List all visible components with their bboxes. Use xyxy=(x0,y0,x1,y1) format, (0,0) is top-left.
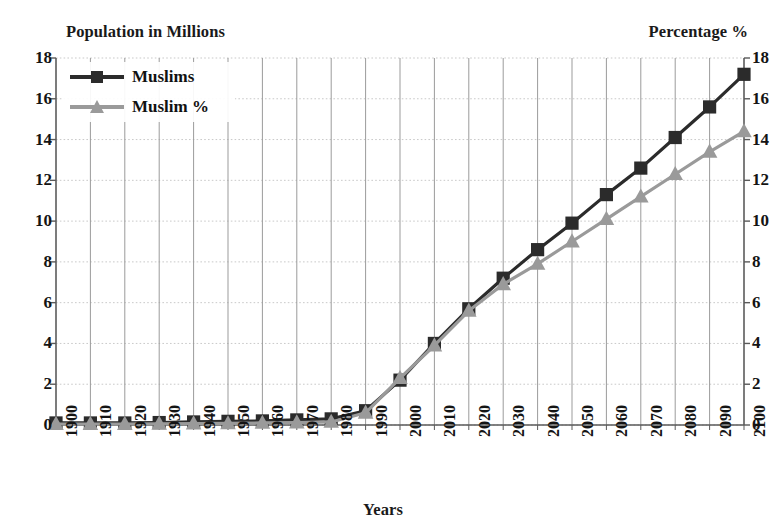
left-axis-tick-4: 4 xyxy=(12,334,52,351)
legend: Muslims Muslim % xyxy=(63,62,235,122)
x-axis-tick-2040: 2040 xyxy=(545,405,563,437)
legend-swatch-muslim-pct-icon xyxy=(69,98,125,116)
right-axis-tick-8: 8 xyxy=(752,253,774,270)
legend-swatch-muslims-icon xyxy=(69,68,125,86)
right-axis-tick-12: 12 xyxy=(752,171,774,188)
x-axis-tick-2100: 2100 xyxy=(751,405,769,437)
legend-label-muslim-pct: Muslim % xyxy=(132,97,209,117)
x-axis-tick-1960: 1960 xyxy=(269,405,287,437)
x-axis-tick-1900: 1900 xyxy=(63,405,81,437)
x-axis-tick-2080: 2080 xyxy=(682,405,700,437)
x-axis-tick-2070: 2070 xyxy=(648,405,666,437)
x-axis-tick-1990: 1990 xyxy=(373,405,391,437)
x-axis-tick-2060: 2060 xyxy=(613,405,631,437)
legend-item-muslims: Muslims xyxy=(69,65,235,89)
x-axis-tick-1910: 1910 xyxy=(97,405,115,437)
right-axis-tick-14: 14 xyxy=(752,131,774,148)
x-axis-tick-1980: 1980 xyxy=(338,405,356,437)
left-axis-tick-14: 14 xyxy=(12,131,52,148)
left-axis-tick-16: 16 xyxy=(12,90,52,107)
left-axis-tick-8: 8 xyxy=(12,253,52,270)
legend-label-muslims: Muslims xyxy=(132,67,194,87)
right-axis-tick-16: 16 xyxy=(752,90,774,107)
x-axis-tick-1970: 1970 xyxy=(304,405,322,437)
right-axis-tick-2: 2 xyxy=(752,375,774,392)
left-axis-tick-10: 10 xyxy=(12,212,52,229)
right-axis-tick-6: 6 xyxy=(752,294,774,311)
left-axis-tick-6: 6 xyxy=(12,294,52,311)
x-axis-tick-1950: 1950 xyxy=(235,405,253,437)
x-axis-tick-1930: 1930 xyxy=(166,405,184,437)
right-axis-tick-4: 4 xyxy=(752,334,774,351)
right-axis-tick-18: 18 xyxy=(752,49,774,66)
x-axis-tick-2000: 2000 xyxy=(407,405,425,437)
left-axis-tick-2: 2 xyxy=(12,375,52,392)
x-axis-tick-2010: 2010 xyxy=(441,405,459,437)
x-axis-tick-2050: 2050 xyxy=(579,405,597,437)
left-axis-tick-0: 0 xyxy=(12,416,52,433)
x-axis-tick-1940: 1940 xyxy=(201,405,219,437)
right-axis-tick-10: 10 xyxy=(752,212,774,229)
x-axis-tick-1920: 1920 xyxy=(132,405,150,437)
x-axis-tick-2020: 2020 xyxy=(476,405,494,437)
left-axis-tick-18: 18 xyxy=(12,49,52,66)
x-axis-tick-2090: 2090 xyxy=(717,405,735,437)
legend-item-muslim-pct: Muslim % xyxy=(69,95,235,119)
left-axis-tick-12: 12 xyxy=(12,171,52,188)
x-axis-tick-2030: 2030 xyxy=(510,405,528,437)
